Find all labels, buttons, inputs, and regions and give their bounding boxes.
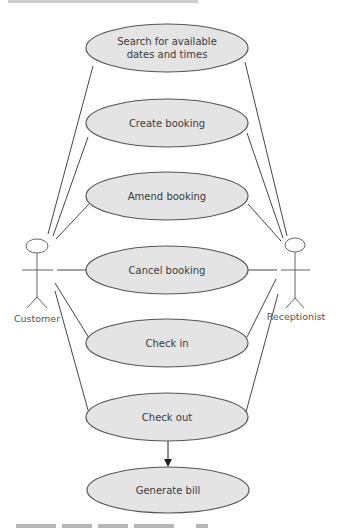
use-case-create-label: Create booking bbox=[129, 118, 205, 129]
use-case-checkin-label: Check in bbox=[145, 338, 188, 349]
use-case-checkout-label: Check out bbox=[142, 412, 192, 423]
use-case-search: Search for available dates and times bbox=[86, 24, 248, 72]
stick-figure-icon bbox=[281, 238, 310, 308]
actor-customer: Customer bbox=[14, 239, 60, 324]
use-case-search-label-2: dates and times bbox=[127, 49, 208, 60]
stick-figure-icon bbox=[22, 239, 53, 308]
assoc-customer-amend bbox=[56, 204, 89, 239]
receptionist-associations bbox=[245, 62, 287, 412]
cut-off-header bbox=[8, 0, 198, 3]
assoc-receptionist-search bbox=[245, 62, 287, 236]
use-case-cancel-label: Cancel booking bbox=[129, 265, 206, 276]
use-case-diagram: Search for available dates and times Cre… bbox=[0, 0, 345, 528]
customer-associations bbox=[48, 66, 93, 410]
use-case-check-out: Check out bbox=[86, 393, 248, 441]
use-case-amend-booking: Amend booking bbox=[86, 172, 248, 220]
use-case-amend-label: Amend booking bbox=[128, 191, 206, 202]
assoc-receptionist-checkin bbox=[247, 279, 276, 337]
cut-off-caption bbox=[16, 524, 208, 528]
use-case-cancel-booking: Cancel booking bbox=[86, 246, 248, 294]
use-case-create-booking: Create booking bbox=[86, 99, 248, 147]
use-case-check-in: Check in bbox=[86, 319, 248, 367]
actor-receptionist-label: Receptionist bbox=[267, 311, 326, 322]
use-case-generate-bill: Generate bill bbox=[87, 467, 249, 513]
assoc-receptionist-amend bbox=[248, 204, 281, 241]
actor-customer-label: Customer bbox=[14, 313, 60, 324]
assoc-customer-search bbox=[48, 66, 93, 234]
use-case-search-label-1: Search for available bbox=[117, 36, 217, 47]
use-case-bill-label: Generate bill bbox=[136, 485, 201, 496]
assoc-receptionist-create bbox=[247, 133, 283, 238]
